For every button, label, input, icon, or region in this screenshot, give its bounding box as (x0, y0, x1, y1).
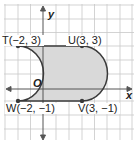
origin-label: O (33, 77, 42, 89)
label-v: V(3, −1) (78, 102, 117, 114)
label-w: W(−2, −1) (6, 102, 55, 114)
label-u: U(3, 3) (68, 34, 102, 46)
coordinate-plane: T(−2, 3) U(3, 3) V(3, −1) W(−2, −1) y x … (0, 0, 137, 144)
y-axis-label: y (47, 8, 55, 20)
x-axis-label: x (125, 89, 133, 101)
shaded-region (18, 46, 107, 101)
label-t: T(−2, 3) (2, 34, 41, 46)
